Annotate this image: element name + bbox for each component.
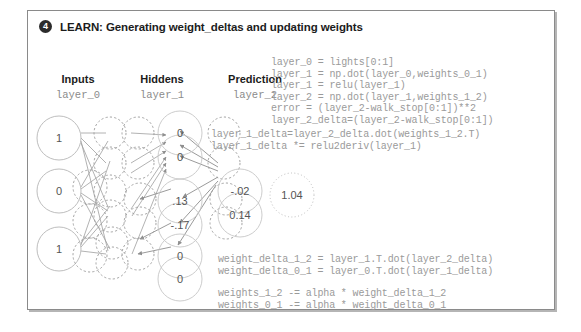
hidden-node-values: 0 0 .13 -.17 0 0 (171, 127, 190, 285)
hidden-value: .13 (172, 195, 187, 207)
hidden-value: -.17 (171, 219, 190, 231)
prediction-nodes (218, 169, 262, 237)
hidden-value: 0 (177, 273, 183, 285)
code-forward-pass: layer_0 = lights[0:1] layer_1 = np.dot(l… (271, 57, 493, 127)
input-value: 1 (56, 243, 62, 255)
column-sub-hiddens: layer_1 (120, 89, 204, 101)
backprop-arrows (138, 131, 218, 254)
input-nodes (37, 116, 81, 271)
prediction-value: -.02 (231, 185, 250, 197)
hidden-value: 0 (177, 250, 183, 262)
column-title-hiddens: Hiddens (120, 73, 204, 85)
network-edges (81, 133, 110, 254)
learn-panel: 4 LEARN: Generating weight_deltas and up… (27, 10, 555, 310)
column-header-hiddens: Hiddens layer_1 (120, 73, 204, 101)
input-value: 1 (56, 132, 62, 144)
hidden-value-nodes (158, 111, 202, 301)
hidden-value: 0 (177, 127, 183, 139)
column-title-inputs: Inputs (36, 73, 120, 85)
code-layer1-delta: layer_1_delta=layer_2_delta.dot(weights_… (211, 129, 480, 152)
code-weight-update: weights_1_2 -= alpha * weight_delta_1_2 … (218, 288, 446, 311)
hidden-to-output-edges (131, 133, 166, 254)
hidden-value: 0 (177, 151, 183, 163)
prediction-value: 0.14 (229, 209, 250, 221)
page-title: LEARN: Generating weight_deltas and upda… (60, 21, 363, 33)
panel-header: 4 LEARN: Generating weight_deltas and up… (39, 20, 363, 33)
input-value: 0 (56, 185, 62, 197)
column-header-inputs: Inputs layer_0 (36, 73, 120, 101)
goal-node (270, 173, 314, 217)
goal-value: 1.04 (281, 189, 302, 201)
code-weight-delta: weight_delta_1_2 = layer_1.T.dot(layer_2… (218, 254, 493, 277)
column-sub-inputs: layer_0 (36, 89, 120, 101)
step-number-badge: 4 (39, 20, 52, 33)
input-node-values: 1 0 1 (56, 132, 62, 255)
prediction-node-values: -.02 0.14 (229, 185, 250, 221)
hidden-dashed-nodes (73, 117, 128, 279)
